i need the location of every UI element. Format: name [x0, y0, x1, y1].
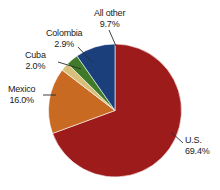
- pie-label-cuba-value: 2.0%: [25, 61, 46, 72]
- pie-label-cuba-name: Cuba: [25, 50, 46, 61]
- pie-label-us-value: 69.4%: [185, 146, 210, 157]
- pie-slices-group: [48, 44, 181, 177]
- pie-label-us-name: U.S.: [185, 135, 210, 146]
- pie-label-colombia-name: Colombia: [46, 28, 82, 39]
- pie-label-mexico-name: Mexico: [8, 84, 35, 95]
- pie-label-mexico: Mexico 16.0%: [8, 84, 35, 105]
- pie-chart-figure: All other 9.7% Colombia 2.9% Cuba 2.0% M…: [0, 0, 220, 190]
- pie-label-colombia: Colombia 2.9%: [46, 28, 82, 49]
- pie-label-all-other: All other 9.7%: [94, 8, 125, 29]
- pie-label-cuba: Cuba 2.0%: [25, 50, 46, 71]
- pie-label-us: U.S. 69.4%: [185, 135, 210, 156]
- pie-label-all-other-value: 9.7%: [94, 19, 125, 30]
- pie-label-colombia-value: 2.9%: [46, 39, 82, 50]
- pie-label-all-other-name: All other: [94, 8, 125, 19]
- leader-line-allother: [109, 30, 116, 46]
- pie-label-mexico-value: 16.0%: [8, 95, 35, 106]
